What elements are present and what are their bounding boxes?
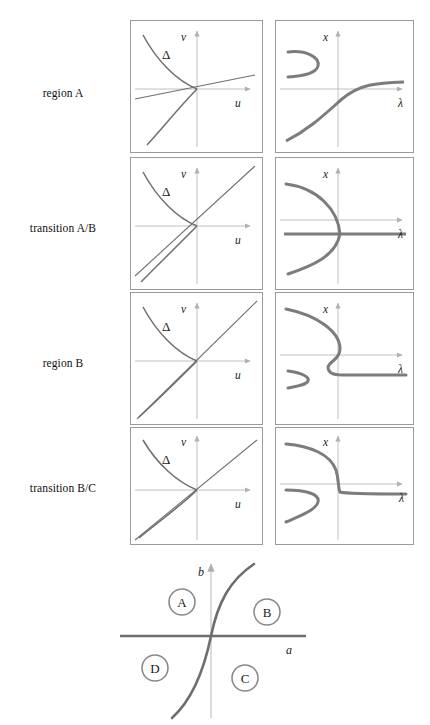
parabola-branch-2	[286, 184, 340, 274]
axis-label-a: a	[286, 643, 292, 657]
axis-label-x-2: x	[322, 168, 329, 180]
panel-transition-bc-uv: u v Δ	[130, 427, 263, 545]
row-label-region-a: region A	[0, 87, 126, 99]
axis-label-v-1: v	[181, 31, 187, 43]
axes-lx-1	[280, 31, 402, 147]
main-branch-1	[286, 82, 404, 141]
axis-label-lambda-3: λ	[397, 363, 403, 375]
parameter-line-2	[135, 166, 255, 276]
detached-fold-1	[288, 52, 318, 77]
axes-uv-1	[135, 31, 250, 147]
axis-label-u-3: u	[235, 369, 241, 381]
detached-fold-4	[286, 490, 318, 522]
region-marker-b: B	[254, 599, 280, 625]
cusp-curve-upper-2	[143, 172, 197, 226]
svg-text:A: A	[177, 595, 187, 610]
panel-transition-ab-uv: u v Δ	[130, 157, 263, 290]
cusp-curve-lower-4	[139, 490, 197, 538]
axis-label-v-2: v	[181, 168, 187, 180]
region-marker-d: D	[142, 655, 168, 681]
parameter-line-1	[135, 75, 255, 99]
curve-label-delta-1: Δ	[162, 47, 170, 62]
axes-uv-2	[135, 168, 250, 284]
axes-lx-3	[280, 303, 402, 419]
axis-label-lambda-1: λ	[397, 97, 403, 109]
row-label-transition-ab: transition A/B	[0, 222, 126, 234]
row-label-region-b: region B	[0, 357, 126, 369]
axis-label-b: b	[198, 565, 204, 579]
curve-label-delta-2: Δ	[162, 184, 170, 199]
cusp-curve-lower-1	[147, 89, 197, 145]
cusp-curve-upper-3	[143, 307, 197, 361]
cusp-curve-upper-1	[143, 35, 197, 89]
axis-label-lambda-2: λ	[397, 228, 403, 240]
fold-branch-3	[286, 309, 406, 375]
axis-label-u-1: u	[235, 97, 241, 109]
axis-label-x-3: x	[322, 303, 329, 315]
panel-region-b-uv: u v Δ	[130, 292, 263, 425]
axis-label-v-3: v	[181, 303, 187, 315]
region-marker-c: C	[232, 665, 258, 691]
panel-region-b-lambda-x: λ x	[275, 292, 414, 425]
parameter-space-diagram: a b A B C D	[110, 550, 320, 722]
curve-label-delta-4: Δ	[162, 452, 170, 467]
svg-text:D: D	[150, 661, 159, 676]
cusp-curve-lower-2	[141, 226, 197, 282]
svg-text:C: C	[241, 671, 250, 686]
svg-text:B: B	[263, 605, 272, 620]
panel-region-a-lambda-x: λ x	[275, 20, 414, 153]
axis-label-u-4: u	[235, 498, 241, 510]
panel-transition-ab-lambda-x: λ x	[275, 157, 414, 290]
separatrix-curve	[172, 564, 254, 718]
axes-ab	[120, 564, 306, 718]
panel-region-a-uv: u v Δ	[130, 20, 263, 153]
axis-label-u-2: u	[235, 234, 241, 246]
region-marker-a: A	[169, 589, 195, 615]
curve-label-delta-3: Δ	[162, 319, 170, 334]
axes-uv-3	[135, 303, 250, 419]
row-label-transition-bc: transition B/C	[0, 482, 126, 494]
figure-root: region A transition A/B region B transit…	[0, 0, 430, 725]
upper-branch-4	[286, 444, 406, 494]
axes-lx-4	[280, 436, 402, 540]
detached-fold-3	[288, 371, 308, 388]
panel-transition-bc-lambda-x: λ x	[275, 427, 414, 545]
axis-label-x-4: x	[322, 436, 329, 448]
axis-label-x-1: x	[322, 31, 329, 43]
axis-label-v-4: v	[181, 436, 187, 448]
axis-label-lambda-4: λ	[398, 492, 404, 504]
